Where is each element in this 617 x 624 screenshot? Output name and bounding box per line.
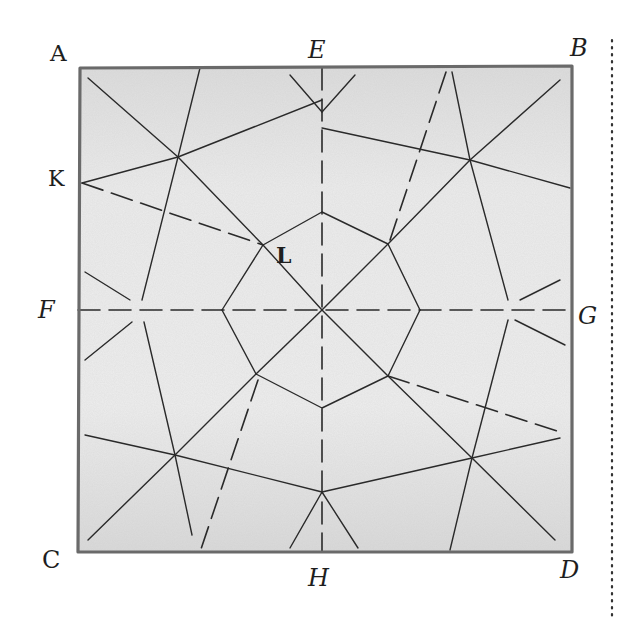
label-b: B bbox=[570, 36, 588, 60]
label-a: A bbox=[50, 42, 67, 65]
label-g: G bbox=[578, 304, 597, 328]
crease-pattern-diagram bbox=[0, 0, 617, 624]
label-k: K bbox=[48, 168, 64, 190]
label-e: E bbox=[308, 38, 326, 62]
label-l: L bbox=[276, 244, 291, 266]
label-d: D bbox=[560, 558, 579, 582]
label-f: F bbox=[38, 298, 55, 322]
label-c: C bbox=[42, 548, 60, 572]
label-h: H bbox=[308, 566, 329, 590]
